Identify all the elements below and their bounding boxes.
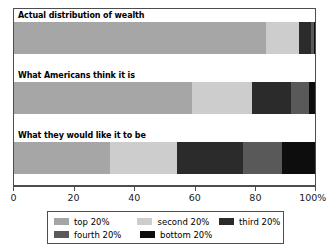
x-axis-tick-label: 60 xyxy=(189,192,201,203)
bar-segment xyxy=(282,142,315,174)
legend-item[interactable]: bottom 20% xyxy=(140,228,224,241)
bar-segment xyxy=(299,22,311,54)
bar-segment xyxy=(266,22,299,54)
legend-swatch-icon xyxy=(54,218,69,225)
bar-segment xyxy=(14,22,266,54)
chart-legend: top 20%second 20%third 20%fourth 20%bott… xyxy=(47,211,284,244)
bar-group-label: What Americans think it is xyxy=(14,69,315,82)
stacked-bar-chart: Actual distribution of wealthWhat Americ… xyxy=(0,0,330,251)
x-axis-tick xyxy=(13,186,14,191)
stacked-bar xyxy=(14,22,315,54)
bar-segment xyxy=(314,22,316,54)
bar-group: What Americans think it is xyxy=(14,69,315,114)
legend-item[interactable]: third 20% xyxy=(219,215,279,228)
legend-item[interactable]: fourth 20% xyxy=(54,228,140,241)
bar-segment xyxy=(291,82,309,114)
bar-segment xyxy=(110,142,176,174)
legend-row: fourth 20%bottom 20% xyxy=(54,228,279,241)
bar-segment xyxy=(309,82,315,114)
x-axis-tick-label: 100% xyxy=(299,192,326,203)
bar-segment xyxy=(14,82,192,114)
bar-group: Actual distribution of wealth xyxy=(14,9,315,54)
x-axis-tick-label: 40 xyxy=(128,192,140,203)
bar-group-label: What they would like it to be xyxy=(14,129,315,142)
bar-segment xyxy=(177,142,243,174)
bar-segment xyxy=(14,142,110,174)
legend-swatch-icon xyxy=(137,218,152,225)
legend-swatch-icon xyxy=(140,231,155,238)
x-axis-tick xyxy=(195,186,196,191)
plot-area: Actual distribution of wealthWhat Americ… xyxy=(13,8,316,186)
bar-group: What they would like it to be xyxy=(14,129,315,174)
stacked-bar xyxy=(14,142,315,174)
x-axis-tick xyxy=(134,186,135,191)
legend-label: top 20% xyxy=(74,217,110,227)
bar-segment xyxy=(243,142,282,174)
legend-item[interactable]: second 20% xyxy=(137,215,219,228)
legend-label: fourth 20% xyxy=(74,230,121,240)
legend-swatch-icon xyxy=(219,218,234,225)
x-axis-tick-label: 20 xyxy=(68,192,80,203)
bar-group-label: Actual distribution of wealth xyxy=(14,9,315,22)
legend-item[interactable]: top 20% xyxy=(54,215,137,228)
x-axis-tick-label: 80 xyxy=(249,192,261,203)
stacked-bar xyxy=(14,82,315,114)
legend-label: bottom 20% xyxy=(160,230,212,240)
x-axis: 020406080100% xyxy=(13,186,316,212)
legend-label: third 20% xyxy=(239,217,280,227)
x-axis-tick-label: 0 xyxy=(11,192,17,203)
bar-segment xyxy=(252,82,291,114)
legend-swatch-icon xyxy=(54,231,69,238)
legend-row: top 20%second 20%third 20% xyxy=(54,215,279,228)
x-axis-tick xyxy=(315,186,316,191)
legend-label: second 20% xyxy=(157,217,209,227)
x-axis-tick xyxy=(74,186,75,191)
x-axis-tick xyxy=(255,186,256,191)
bar-segment xyxy=(192,82,252,114)
x-axis-line xyxy=(13,186,316,187)
